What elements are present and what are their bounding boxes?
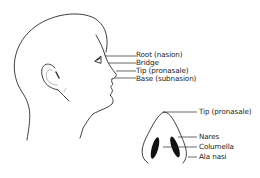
basal-nose-illustration <box>142 112 186 163</box>
profile-leader-lines <box>105 56 136 78</box>
label-columella: Columella <box>199 143 234 150</box>
label-nares: Nares <box>199 133 219 140</box>
basal-leader-lines <box>163 112 197 157</box>
label-ala-nasi: Ala nasi <box>199 153 227 160</box>
label-basal-tip-pronasale: Tip (pronasale) <box>199 108 251 115</box>
head-profile-illustration <box>14 14 116 140</box>
label-base-subnasion: Base (subnasion) <box>136 75 196 82</box>
